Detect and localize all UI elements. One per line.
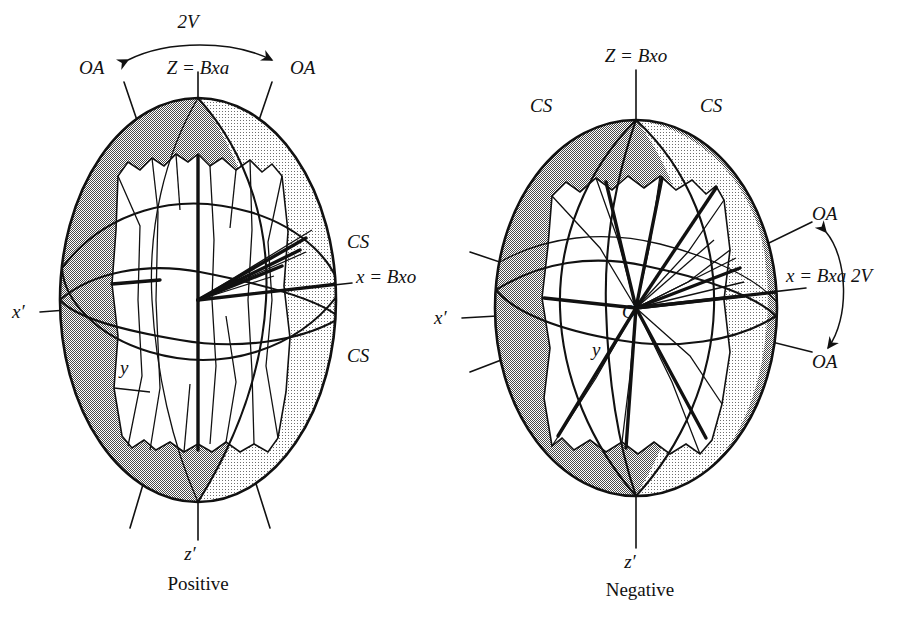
caption-positive: Positive [167,573,228,594]
label-cs-right: CS [700,95,723,116]
indicatrix-figure: 2V OA Z = Bxa OA CS x = Bxo CS x′ y z′ P… [0,0,904,621]
label-z-bxo: Z = Bxo [605,45,667,66]
figure-canvas: 2V OA Z = Bxa OA CS x = Bxo CS x′ y z′ P… [0,0,904,621]
label-y-2: y [590,339,601,360]
label-x-bxo: x = Bxo [355,266,416,287]
label-x-prime-2: x′ [433,307,447,328]
label-2v: 2V [177,11,201,32]
caption-negative: Negative [606,579,675,600]
label-origin-o: O [622,301,636,322]
label-oa-lower: OA [812,351,838,372]
label-cs-left: CS [530,95,553,116]
negative-2v-arc [826,232,844,348]
label-z-prime: z′ [183,543,196,564]
label-y: y [118,357,129,378]
diagram-negative: Z = Bxo CS CS OA x = Bxa 2V OA x′ O y z′… [433,45,875,600]
label-cs-upper: CS [347,231,370,252]
label-cs-lower: CS [347,345,370,366]
label-z-prime-2: z′ [623,551,636,572]
diagram-positive: 2V OA Z = Bxa OA CS x = Bxo CS x′ y z′ P… [11,11,416,594]
label-oa-right: OA [290,57,316,78]
label-oa-left: OA [79,57,105,78]
label-z-bxa: Z = Bxa [167,57,229,78]
label-x-bxa-2v: x = Bxa 2V [785,265,875,286]
label-x-prime: x′ [11,301,25,322]
label-oa-upper: OA [812,203,838,224]
